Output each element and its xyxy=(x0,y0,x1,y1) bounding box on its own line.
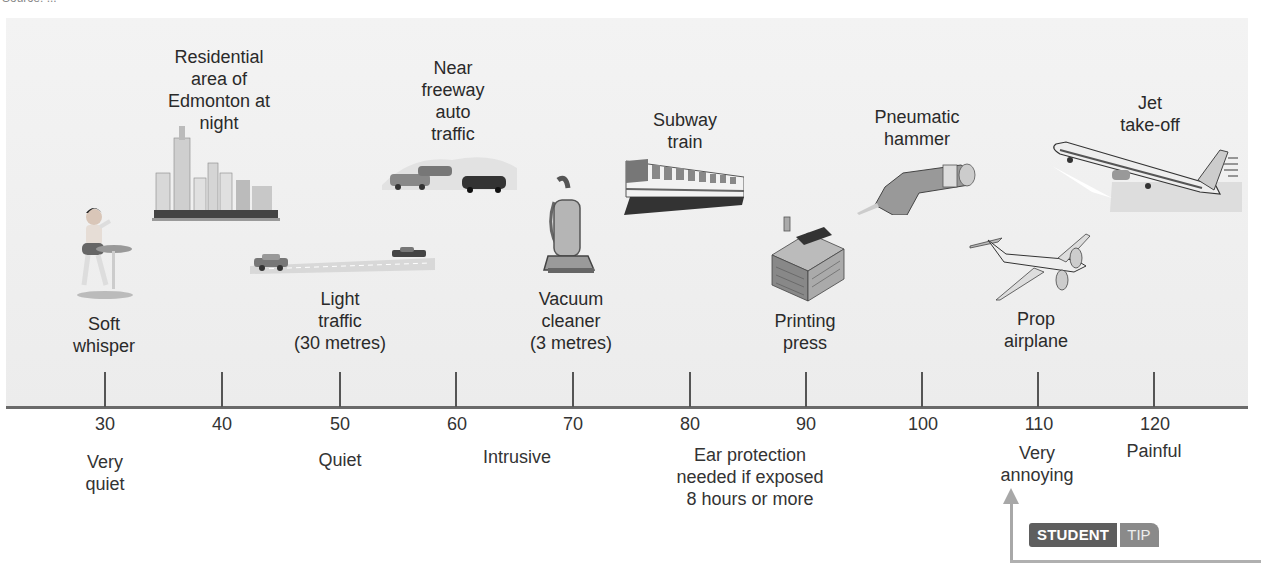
tick-30 xyxy=(104,372,106,407)
descriptor-painful: Painful xyxy=(1126,440,1181,462)
two-cars-road-icon xyxy=(250,244,435,274)
tick-label-120: 120 xyxy=(1140,414,1170,435)
tick-label-30: 30 xyxy=(95,414,115,435)
tick-label-110: 110 xyxy=(1025,414,1054,435)
prop-airplane-icon xyxy=(968,228,1093,303)
label-pneumatic: Pneumatic hammer xyxy=(874,106,959,150)
descriptor-quiet: Quiet xyxy=(318,449,361,471)
factory-building-icon xyxy=(768,215,848,303)
pneumatic-hammer-icon xyxy=(855,155,980,215)
label-subway: Subway train xyxy=(653,109,717,153)
tick-120 xyxy=(1153,372,1155,407)
label-prop: Prop airplane xyxy=(1004,308,1068,352)
tick-60 xyxy=(455,372,457,407)
tick-label-100: 100 xyxy=(908,414,938,435)
descriptor-ear-protection: Ear protection needed if exposed 8 hours… xyxy=(676,444,823,510)
tip-label: TIP xyxy=(1120,523,1158,547)
subway-train-icon xyxy=(622,155,744,217)
label-light-traffic: Light traffic (30 metres) xyxy=(294,288,386,354)
tick-label-50: 50 xyxy=(330,414,350,435)
label-vacuum: Vacuum cleaner (3 metres) xyxy=(530,288,612,354)
descriptor-very-quiet: Very quiet xyxy=(85,451,124,495)
tick-label-40: 40 xyxy=(212,414,232,435)
label-jet: Jet take-off xyxy=(1120,92,1180,136)
student-tip-badge[interactable]: STUDENT TIP xyxy=(1029,523,1159,547)
label-freeway: Near freeway auto traffic xyxy=(421,57,484,145)
jet-airplane-icon xyxy=(1052,140,1242,212)
tick-70 xyxy=(572,372,574,407)
tip-arrow-stem xyxy=(1010,500,1013,562)
descriptor-intrusive: Intrusive xyxy=(483,446,551,468)
tick-40 xyxy=(221,372,223,407)
label-soft-whisper: Soft whisper xyxy=(73,313,135,357)
label-residential: Residential area of Edmonton at night xyxy=(168,46,270,134)
student-label: STUDENT xyxy=(1029,523,1117,547)
tick-label-70: 70 xyxy=(563,414,583,435)
tick-110 xyxy=(1037,372,1039,407)
descriptor-very-annoying: Very annoying xyxy=(1000,442,1073,486)
tip-arrow-baseline xyxy=(1010,560,1261,563)
vacuum-cleaner-icon xyxy=(540,172,600,277)
tick-label-80: 80 xyxy=(680,414,700,435)
tick-50 xyxy=(339,372,341,407)
label-printing: Printing press xyxy=(774,310,835,354)
tick-90 xyxy=(805,372,807,407)
tick-100 xyxy=(921,372,923,407)
tick-label-90: 90 xyxy=(796,414,816,435)
tick-80 xyxy=(689,372,691,407)
woman-at-table-icon xyxy=(70,205,140,300)
freeway-cars-icon xyxy=(382,150,517,195)
tick-label-60: 60 xyxy=(447,414,467,435)
source-caption: Source: ... xyxy=(2,0,57,5)
decibel-axis-line xyxy=(6,406,1248,409)
